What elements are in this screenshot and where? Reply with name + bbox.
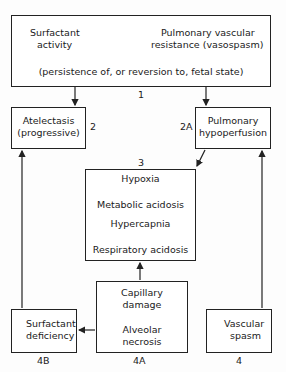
fetal-state-note: (persistence of, or reversion to, fetal …	[11, 66, 271, 78]
hypoperfusion-line2: hypoperfusion	[195, 127, 271, 139]
label-2: 2	[90, 121, 96, 132]
spasm-line2: spasm	[230, 330, 261, 342]
label-4: 4	[236, 355, 242, 366]
vascular-resistance-line2: resistance (vasospasm)	[151, 39, 263, 51]
hypoperfusion-line1: Pulmonary	[195, 115, 271, 127]
damage-text: damage	[96, 299, 188, 311]
label-4b: 4B	[37, 355, 50, 366]
surfactant-def-line2: deficiency	[26, 330, 74, 342]
label-2a: 2A	[180, 121, 193, 132]
hypercapnia-text: Hypercapnia	[85, 218, 196, 230]
surfactant-activity-line2: activity	[37, 39, 72, 51]
atelectasis-line2: (progressive)	[11, 127, 86, 139]
vascular-resistance-line1: Pulmonary vascular	[161, 27, 255, 39]
atelectasis-line1: Atelectasis	[11, 115, 86, 127]
label-1: 1	[138, 89, 144, 100]
surfactant-activity-line1: Surfactant	[30, 27, 80, 39]
vascular-line1: Vascular	[224, 318, 264, 330]
alveolar-text: Alveolar	[96, 324, 188, 336]
label-3: 3	[138, 157, 144, 168]
metabolic-acidosis-text: Metabolic acidosis	[85, 199, 196, 211]
necrosis-text: necrosis	[96, 336, 188, 348]
respiratory-acidosis-text: Respiratory acidosis	[85, 244, 196, 256]
hypoxia-text: Hypoxia	[85, 173, 196, 185]
capillary-text: Capillary	[96, 287, 188, 299]
surfactant-def-line1: Surfactant	[26, 318, 76, 330]
label-4a: 4A	[133, 355, 146, 366]
